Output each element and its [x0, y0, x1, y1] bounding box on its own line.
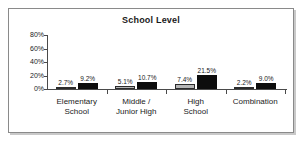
category-label: ElementarySchool — [47, 97, 107, 117]
category-label-line: Middle / — [107, 97, 167, 107]
category-label: Combination — [226, 97, 286, 107]
x-axis-separator — [166, 90, 167, 94]
y-tick-label: 40% — [30, 58, 44, 65]
category-label-line: Combination — [226, 97, 286, 107]
chart-title: School Level — [9, 15, 293, 25]
bar[interactable] — [175, 84, 195, 89]
bar[interactable] — [256, 83, 276, 89]
bar[interactable] — [234, 87, 254, 89]
y-tick-label-wrap: 0% — [19, 85, 44, 92]
bar-value-label: 21.5% — [194, 67, 220, 74]
bar-group: 2.2%9.0% — [226, 35, 286, 89]
category-label-line: Elementary — [47, 97, 107, 107]
y-tick-label-wrap: 80% — [19, 31, 44, 38]
y-tick-label-wrap: 60% — [19, 45, 44, 52]
bar[interactable] — [78, 83, 98, 89]
bar-group: 7.4%21.5% — [166, 35, 226, 89]
chart-panel: School Level 80%60%40%20%0% 2.7%9.2%5.1%… — [8, 8, 294, 133]
bar[interactable] — [137, 82, 157, 89]
bar-value-label: 9.0% — [253, 75, 279, 82]
y-tick-label-wrap: 20% — [19, 72, 44, 79]
category-label-line: School — [47, 107, 107, 117]
bar-value-label: 7.4% — [172, 76, 198, 83]
y-tick-label-wrap: 40% — [19, 58, 44, 65]
category-label: Middle /Junior High — [107, 97, 167, 117]
y-tick-mark — [44, 89, 47, 90]
bar-group: 2.7%9.2% — [47, 35, 107, 89]
category-label-line: High — [166, 97, 226, 107]
bar-group: 5.1%10.7% — [107, 35, 167, 89]
x-axis-end-tick — [285, 90, 286, 94]
bar[interactable] — [115, 86, 135, 89]
x-axis-line — [47, 89, 287, 90]
plot-area: 2.7%9.2%5.1%10.7%7.4%21.5%2.2%9.0% — [47, 35, 285, 89]
y-tick-label: 0% — [34, 85, 44, 92]
category-label-line: Junior High — [107, 107, 167, 117]
bar[interactable] — [56, 87, 76, 89]
category-label: HighSchool — [166, 97, 226, 117]
bar-value-label: 10.7% — [134, 74, 160, 81]
bar[interactable] — [197, 75, 217, 90]
y-tick-label: 60% — [30, 45, 44, 52]
y-tick-label: 20% — [30, 72, 44, 79]
bar-value-label: 9.2% — [75, 75, 101, 82]
x-axis-separator — [226, 90, 227, 94]
x-axis-separator — [107, 90, 108, 94]
y-tick-label: 80% — [30, 31, 44, 38]
category-label-line: School — [166, 107, 226, 117]
